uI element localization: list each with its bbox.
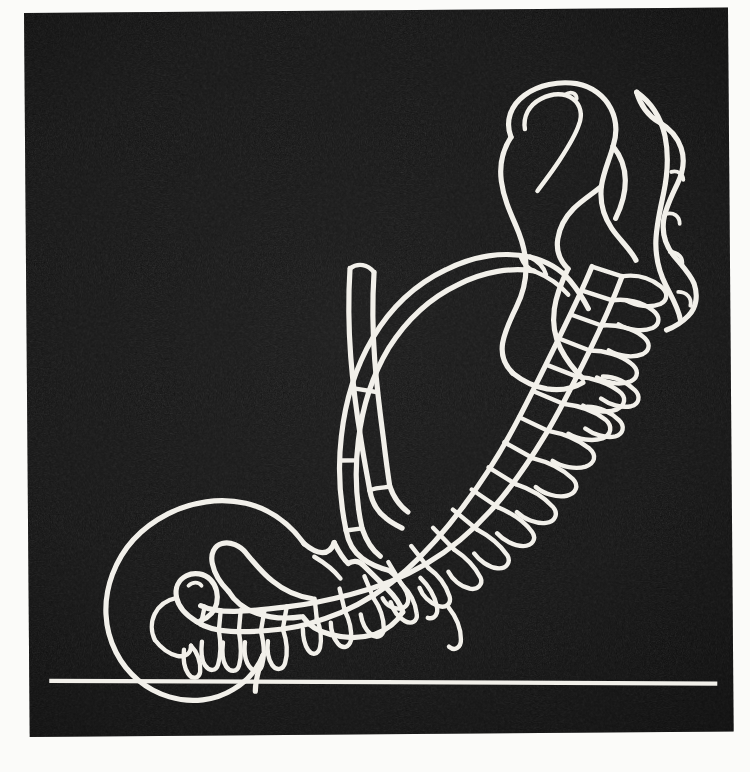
black-plate	[24, 7, 734, 737]
figure-root: Human skeleton in flexed supine position…	[0, 0, 750, 772]
skeleton-line-art	[24, 7, 734, 737]
